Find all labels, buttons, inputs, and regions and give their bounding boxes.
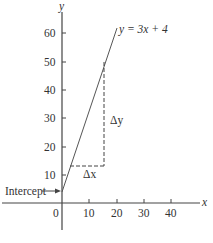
y-axis-label: y	[59, 1, 64, 13]
x-tick-label: 30	[138, 208, 150, 220]
line-equation-label: y = 3x + 4	[119, 24, 168, 36]
y-tick-label: 40	[44, 85, 56, 97]
intercept-label: Intercept	[5, 186, 46, 198]
chart-canvas	[0, 0, 213, 243]
y-tick-label: 20	[44, 142, 56, 154]
delta-x-label: Δx	[83, 169, 96, 181]
intercept-arrowhead-icon	[55, 189, 61, 194]
origin-label: 0	[53, 208, 59, 220]
x-tick-label: 20	[111, 208, 123, 220]
delta-y-label: Δy	[110, 115, 123, 127]
y-tick-label: 50	[44, 57, 56, 69]
x-tick-label: 10	[83, 208, 95, 220]
y-tick-label: 30	[44, 113, 56, 125]
y-tick-label: 60	[44, 28, 56, 40]
x-tick-label: 40	[165, 208, 177, 220]
y-tick-label: 10	[44, 170, 56, 182]
x-axis-label: x	[202, 197, 207, 209]
